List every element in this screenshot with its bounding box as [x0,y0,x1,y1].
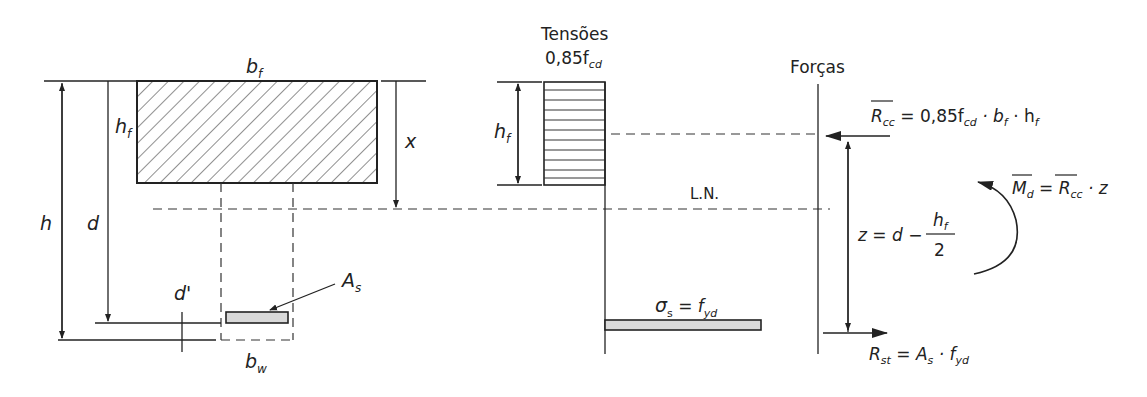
stresses-title: Tensões [540,24,608,44]
label-d: d [87,212,100,234]
label-hf: hf [115,115,133,141]
label-h: h [40,212,52,234]
rcc-label: Rcc = 0,85fcd · bf · hf [871,106,1041,129]
md-label: Md = Rcc · z [1012,178,1109,201]
steel-stress-bar [605,320,761,330]
z-numerator: hf [933,210,950,233]
stress-hf-label: hf [494,120,512,146]
forces-title: Forças [790,57,845,77]
z-denominator: 2 [934,240,945,260]
cross-section [44,81,426,352]
as-leader [270,284,335,310]
rst-label: Rst = As · fyd [869,344,970,367]
neutral-axis-label: L.N. [690,185,719,203]
steel-stress-label: σs = fyd [655,294,718,320]
label-d-prime: d' [174,282,191,304]
label-as: As [340,269,361,295]
flange [137,81,377,183]
z-label: z = d − [857,225,922,245]
stress-diagram [497,82,761,354]
steel-reinforcement [226,312,288,323]
label-bw: bw [245,350,267,376]
t-beam-diagram: bf hf h d x d' As bw Tensões 0,85fcd hf … [0,0,1147,397]
concrete-stress-label: 0,85fcd [545,48,603,71]
label-x: x [404,130,417,152]
label-bf: bf [246,55,264,81]
moment-arc [974,182,1017,274]
